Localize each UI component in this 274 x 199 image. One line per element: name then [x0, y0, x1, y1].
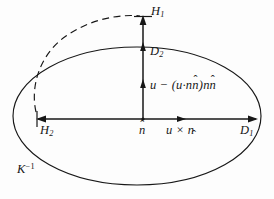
label-k-inverse: K−1	[17, 163, 35, 176]
n-hat-glyph-a: nˆ	[192, 79, 198, 92]
label-h1: H1	[151, 5, 164, 19]
d1-arrowhead	[248, 116, 258, 123]
label-d2: D2	[150, 45, 163, 59]
label-d1: D1	[240, 124, 253, 138]
n-hat-glyph-b: nˆ	[210, 79, 216, 92]
label-n-hat: nˆ	[139, 124, 145, 137]
label-u-cross-n: u × nˆ	[166, 124, 194, 137]
label-projection-vector: u − (u·nnˆ)nnˆ	[150, 79, 216, 92]
n-hat-glyph-center: nˆ	[139, 124, 145, 137]
figure-vector-layer	[0, 0, 274, 199]
dashed-arc	[34, 16, 140, 112]
figure-canvas: H1 D2 u − (u·nnˆ)nnˆ H2 nˆ u × nˆ D1 K−1	[0, 0, 274, 199]
u-cross-n-arrowhead	[177, 116, 186, 122]
projection-arrowhead	[140, 79, 146, 88]
k-inverse-ellipse	[13, 47, 261, 185]
label-h2: H2	[40, 124, 53, 138]
